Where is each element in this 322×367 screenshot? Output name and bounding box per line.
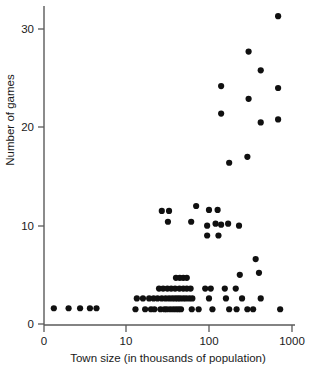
data-point	[244, 154, 250, 160]
data-point	[218, 83, 224, 89]
data-point	[226, 306, 232, 312]
y-axis-ticks	[38, 29, 44, 324]
data-point	[277, 306, 283, 312]
plot-canvas: 0 10 20 30 0 10 100 1000 Town size (in t…	[0, 0, 322, 367]
x-tick-label-0: 0	[41, 335, 47, 347]
data-point	[159, 208, 165, 214]
data-point	[204, 223, 210, 229]
data-point	[178, 306, 184, 312]
data-point	[239, 295, 245, 301]
data-point	[187, 286, 193, 292]
data-point	[223, 295, 229, 301]
data-point	[202, 286, 208, 292]
data-point	[142, 306, 148, 312]
data-point	[51, 305, 57, 311]
data-point	[253, 256, 259, 262]
y-axis-title: Number of games	[4, 74, 16, 166]
data-point	[215, 207, 221, 213]
data-point	[258, 119, 264, 125]
x-axis-ticks	[44, 325, 292, 332]
data-point	[193, 203, 199, 209]
data-point	[233, 286, 239, 292]
data-point	[246, 96, 252, 102]
data-point	[93, 305, 99, 311]
data-point	[258, 295, 264, 301]
data-point	[77, 305, 83, 311]
data-point	[225, 221, 231, 227]
data-point	[212, 221, 218, 227]
data-point	[258, 67, 264, 73]
data-point	[189, 306, 195, 312]
data-point	[206, 207, 212, 213]
y-tick-label-0: 0	[28, 318, 34, 330]
data-point	[165, 219, 171, 225]
data-point	[208, 286, 214, 292]
data-point	[236, 223, 242, 229]
y-tick-label-10: 10	[21, 220, 34, 232]
data-point	[66, 305, 72, 311]
data-point	[151, 306, 157, 312]
y-tick-label-20: 20	[21, 121, 34, 133]
data-point	[233, 306, 239, 312]
data-point	[244, 306, 250, 312]
data-point	[237, 272, 243, 278]
x-tick-label-100: 100	[199, 335, 218, 347]
data-point	[134, 295, 140, 301]
scatter-plot-figure: 0 10 20 30 0 10 100 1000 Town size (in t…	[0, 0, 322, 367]
data-points-layer	[51, 13, 284, 312]
x-tick-label-1000: 1000	[279, 335, 305, 347]
y-tick-label-30: 30	[21, 23, 34, 35]
data-point	[87, 305, 93, 311]
x-axis-title: Town size (in thousands of population)	[70, 352, 266, 364]
data-point	[206, 295, 212, 301]
data-point	[196, 306, 202, 312]
data-point	[275, 85, 281, 91]
data-point	[226, 160, 232, 166]
data-point	[132, 306, 138, 312]
data-point	[166, 208, 172, 214]
x-tick-label-10: 10	[120, 335, 133, 347]
data-point	[250, 306, 256, 312]
data-point	[215, 232, 221, 238]
data-point	[275, 13, 281, 19]
data-point	[184, 275, 190, 281]
data-point	[188, 219, 194, 225]
data-point	[218, 110, 224, 116]
data-point	[246, 49, 252, 55]
data-point	[189, 295, 195, 301]
data-point	[204, 232, 210, 238]
data-point	[218, 222, 224, 228]
data-point	[222, 286, 228, 292]
data-point	[256, 270, 262, 276]
data-point	[140, 295, 146, 301]
data-point	[275, 116, 281, 122]
data-point	[209, 306, 215, 312]
